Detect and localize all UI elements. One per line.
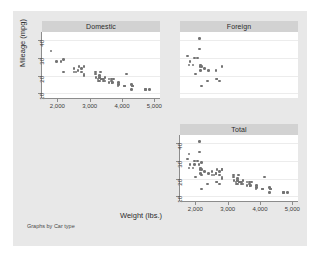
- x-axis-tick-label: 4,000: [111, 103, 133, 109]
- data-point: [200, 85, 203, 88]
- panel-title-band-domestic: Domestic: [42, 21, 160, 32]
- data-point: [269, 188, 272, 191]
- data-point: [95, 76, 98, 79]
- data-point: [62, 58, 65, 61]
- data-point: [83, 65, 86, 68]
- panel-foreign: Foreign: [180, 21, 298, 98]
- stata-graph: Mileage (mpg) Weight (lbs.) Graphs by Ca…: [0, 0, 320, 257]
- gridline: [180, 196, 298, 197]
- gridline: [180, 76, 298, 77]
- data-point: [104, 80, 107, 83]
- x-axis-tick: [154, 99, 155, 102]
- y-axis-tick-label: 10: [39, 93, 45, 105]
- data-point: [77, 69, 80, 72]
- plot-area-foreign: [180, 32, 298, 98]
- data-point: [198, 37, 201, 40]
- x-axis-line: [180, 201, 298, 202]
- gridline: [42, 40, 160, 41]
- x-axis-tick: [292, 202, 293, 205]
- data-point: [282, 191, 285, 194]
- x-axis-tick-label: 3,000: [217, 206, 239, 212]
- plot-area-total: [180, 135, 298, 201]
- data-point: [200, 161, 203, 164]
- data-point: [203, 67, 206, 70]
- data-point: [194, 176, 197, 179]
- data-point: [207, 69, 210, 72]
- y-axis-tick-label: 10: [177, 196, 183, 208]
- data-point: [123, 85, 126, 88]
- x-axis-tick-label: 4,000: [249, 206, 271, 212]
- data-point: [55, 60, 58, 63]
- y-axis-tick-label: 40: [177, 143, 183, 155]
- data-point: [188, 64, 191, 67]
- data-point: [242, 183, 245, 186]
- data-point: [188, 153, 191, 156]
- data-point: [250, 181, 253, 184]
- x-axis-tick-label: 3,000: [79, 103, 101, 109]
- data-point: [206, 80, 209, 83]
- data-point: [198, 48, 201, 51]
- data-point: [62, 71, 65, 74]
- data-point: [131, 85, 134, 88]
- x-axis-tick-label: 5,000: [143, 103, 165, 109]
- data-point: [199, 172, 202, 175]
- panel-total: Total: [180, 124, 298, 201]
- y-axis-tick-label: 30: [177, 161, 183, 173]
- panel-title-band-foreign: Foreign: [180, 21, 298, 32]
- y-axis-tick-label: 20: [39, 76, 45, 88]
- data-point: [215, 69, 218, 72]
- data-point: [207, 172, 210, 175]
- gridline: [180, 143, 298, 144]
- data-point: [130, 88, 133, 91]
- data-point: [200, 188, 203, 191]
- y-axis-tick-label: 20: [177, 179, 183, 191]
- data-point: [112, 78, 115, 81]
- data-point: [255, 184, 258, 187]
- graph-note: Graphs by Car type: [27, 224, 75, 230]
- data-point: [144, 88, 147, 91]
- panel-domestic: Domestic: [42, 21, 160, 98]
- gridline: [42, 58, 160, 59]
- data-point: [111, 81, 114, 84]
- gridline: [42, 93, 160, 94]
- x-axis-tick-label: 5,000: [281, 206, 303, 212]
- x-axis-tick: [195, 202, 196, 205]
- data-point: [246, 184, 249, 187]
- x-axis-tick: [260, 202, 261, 205]
- data-point: [192, 64, 195, 67]
- data-point: [249, 184, 252, 187]
- data-point: [73, 67, 76, 70]
- data-point: [233, 179, 236, 182]
- data-point: [268, 191, 271, 194]
- data-point: [108, 81, 111, 84]
- data-point: [242, 179, 245, 182]
- panel-title-total: Total: [231, 126, 246, 133]
- data-point: [218, 183, 221, 186]
- data-point: [189, 60, 192, 63]
- data-point: [94, 73, 97, 76]
- data-point: [189, 163, 192, 166]
- data-point: [192, 167, 195, 170]
- data-point: [75, 71, 78, 74]
- data-point: [263, 176, 266, 179]
- data-point: [203, 170, 206, 173]
- y-axis-tick-label: 30: [39, 58, 45, 70]
- x-axis-title: Weight (lbs.): [120, 212, 162, 220]
- y-axis-title: Mileage (mpg): [19, 57, 27, 67]
- gridline: [42, 76, 160, 77]
- data-point: [199, 69, 202, 72]
- x-axis-tick: [122, 99, 123, 102]
- data-point: [193, 163, 196, 166]
- data-point: [50, 50, 53, 53]
- data-point: [198, 140, 201, 143]
- panel-title-band-total: Total: [180, 124, 298, 135]
- data-point: [196, 160, 199, 163]
- data-point: [148, 88, 151, 91]
- x-axis-tick-label: 2,000: [46, 103, 68, 109]
- data-point: [261, 188, 264, 191]
- data-point: [221, 168, 224, 171]
- data-point: [206, 183, 209, 186]
- x-axis-tick: [228, 202, 229, 205]
- data-point: [198, 151, 201, 154]
- data-point: [286, 191, 289, 194]
